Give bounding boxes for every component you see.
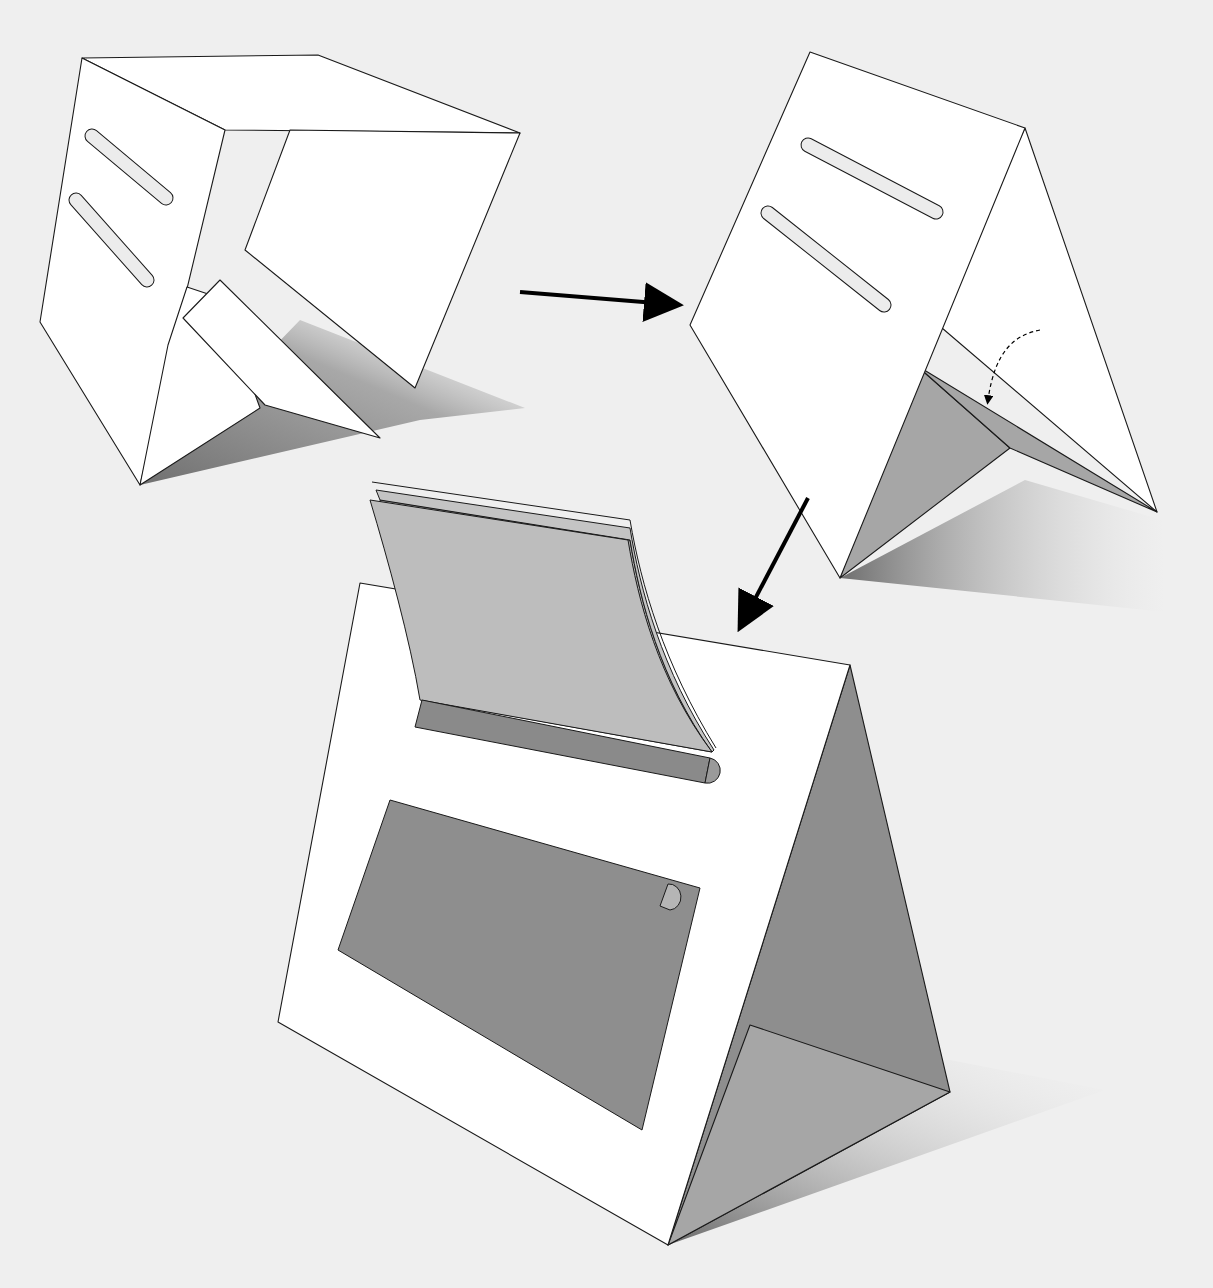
diagram-canvas bbox=[0, 0, 1213, 1288]
step-1-unfolded-stand bbox=[40, 55, 525, 485]
step-3-assembled-calendar bbox=[278, 482, 1105, 1245]
assembly-diagram bbox=[0, 0, 1213, 1288]
step-arrow-down-left-icon bbox=[745, 498, 808, 618]
step-2-folded-tent bbox=[690, 52, 1165, 612]
step-arrow-right-icon bbox=[520, 292, 668, 304]
